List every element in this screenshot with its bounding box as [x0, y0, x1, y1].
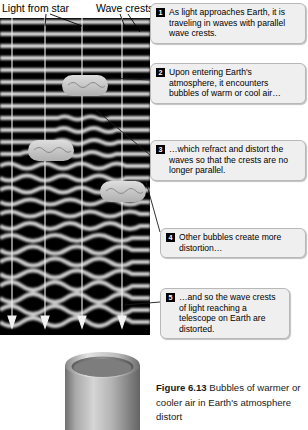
- figure-number: Figure 6.13: [156, 382, 207, 393]
- callout-1: 1 As light approaches Earth, it is trave…: [150, 3, 306, 44]
- callout-5-badge: 5: [166, 293, 175, 302]
- label-light-from-star: Light from star: [2, 2, 69, 14]
- air-bubble-3: [100, 181, 146, 202]
- callout-4-badge: 4: [166, 233, 175, 242]
- air-bubble-1: [62, 75, 108, 96]
- callout-2-badge: 2: [156, 68, 165, 77]
- telescope-image: [60, 345, 152, 430]
- callout-3: 3 …which refract and distort the waves s…: [150, 140, 306, 181]
- callout-2: 2 Upon entering Earth's atmosphere, it e…: [150, 63, 306, 104]
- callout-5-text: …and so the wave crests of light reachin…: [179, 292, 284, 334]
- callout-1-badge: 1: [156, 8, 165, 17]
- air-bubble-2: [28, 140, 74, 161]
- callout-3-badge: 3: [156, 145, 165, 154]
- wave-diagram-svg: [0, 18, 150, 335]
- callout-1-text: As light approaches Earth, it is traveli…: [169, 7, 300, 39]
- callout-4-text: Other bubbles create more distortion…: [179, 232, 300, 253]
- callout-4: 4 Other bubbles create more distortion…: [160, 228, 306, 258]
- callout-3-text: …which refract and distort the waves so …: [169, 144, 300, 176]
- callout-5: 5 …and so the wave crests of light reach…: [160, 288, 290, 339]
- label-wave-crests: Wave crests: [96, 2, 153, 14]
- callout-2-text: Upon entering Earth's atmosphere, it enc…: [169, 67, 300, 99]
- telescope-svg: [60, 345, 152, 430]
- wave-diagram: [0, 18, 150, 335]
- figure-caption: Figure 6.13 Bubbles of warmer or cooler …: [156, 381, 306, 425]
